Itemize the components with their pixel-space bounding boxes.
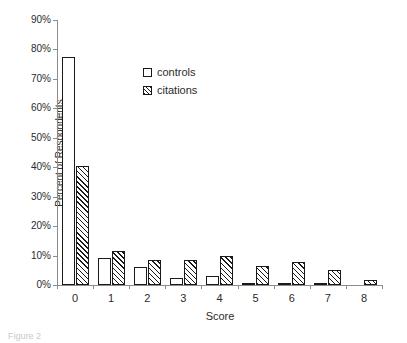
legend-item-controls: controls (143, 64, 197, 80)
x-axis-tick-mark (57, 285, 58, 289)
bar-citations-score-4 (220, 256, 233, 285)
x-axis-tick-label: 5 (253, 293, 259, 304)
y-axis-tick-mark (53, 197, 57, 198)
x-axis-tick-label: 2 (144, 293, 150, 304)
plot-area: 0%10%20%30%40%50%60%70%80%90%012345678 (57, 20, 382, 285)
legend-swatch-citations-icon (143, 86, 152, 95)
x-axis-tick-mark (201, 285, 202, 289)
x-axis-tick-mark (346, 285, 347, 289)
bar-citations-score-7 (328, 270, 341, 285)
x-axis-tick-label: 7 (325, 293, 331, 304)
x-axis-tick-mark (310, 285, 311, 289)
x-axis-title: Score (57, 310, 383, 322)
y-axis-tick-mark (53, 108, 57, 109)
bar-citations-score-2 (148, 260, 161, 285)
chart-legend: controls citations (143, 64, 197, 100)
x-axis-tick-mark (274, 285, 275, 289)
y-axis-tick-label: 80% (31, 44, 51, 54)
x-axis-tick-label: 4 (216, 293, 222, 304)
legend-swatch-controls-icon (143, 68, 152, 77)
x-axis-tick-mark (382, 285, 383, 289)
y-axis-tick-label: 70% (31, 74, 51, 84)
legend-item-citations: citations (143, 82, 197, 98)
bar-citations-score-5 (256, 266, 269, 285)
y-axis-tick-mark (53, 256, 57, 257)
y-axis-tick-mark (53, 138, 57, 139)
y-axis-tick-mark (53, 79, 57, 80)
y-axis-tick-label: 0% (37, 280, 51, 290)
y-axis-tick-label: 20% (31, 221, 51, 231)
x-axis-tick-label: 6 (289, 293, 295, 304)
bar-controls-score-5 (242, 283, 255, 285)
y-axis-tick-label: 60% (31, 103, 51, 113)
bar-citations-score-1 (112, 251, 125, 285)
x-axis-tick-label: 3 (180, 293, 186, 304)
bar-citations-score-3 (184, 260, 197, 285)
x-axis-tick-mark (93, 285, 94, 289)
bar-citations-score-6 (292, 262, 305, 285)
bar-controls-score-2 (134, 267, 147, 285)
y-axis-tick-label: 10% (31, 251, 51, 261)
y-axis-tick-mark (53, 167, 57, 168)
x-axis-tick-label: 1 (108, 293, 114, 304)
y-axis-tick-label: 30% (31, 192, 51, 202)
x-axis-line (57, 285, 383, 286)
y-axis-tick-label: 50% (31, 133, 51, 143)
legend-label-citations: citations (157, 85, 197, 96)
x-axis-tick-mark (238, 285, 239, 289)
x-axis-tick-mark (129, 285, 130, 289)
bar-controls-score-0 (62, 57, 75, 285)
figure-caption: Figure 2 (8, 331, 41, 342)
y-axis-tick-label: 90% (31, 15, 51, 25)
bar-citations-score-8 (364, 280, 377, 285)
bar-controls-score-7 (314, 283, 327, 285)
bar-controls-score-3 (170, 278, 183, 285)
y-axis-tick-mark (53, 49, 57, 50)
bar-controls-score-1 (98, 258, 111, 285)
bar-controls-score-4 (206, 276, 219, 285)
y-axis-tick-label: 40% (31, 162, 51, 172)
x-axis-tick-mark (165, 285, 166, 289)
x-axis-tick-label: 8 (361, 293, 367, 304)
y-axis-title-container: Percent of Respondents (0, 20, 18, 285)
figure-chart: Percent of Respondents 0%10%20%30%40%50%… (0, 0, 407, 343)
bar-citations-score-0 (76, 166, 89, 285)
y-axis-tick-mark (53, 226, 57, 227)
bar-controls-score-6 (278, 283, 291, 285)
legend-label-controls: controls (157, 67, 196, 78)
y-axis-tick-mark (53, 20, 57, 21)
x-axis-tick-label: 0 (72, 293, 78, 304)
